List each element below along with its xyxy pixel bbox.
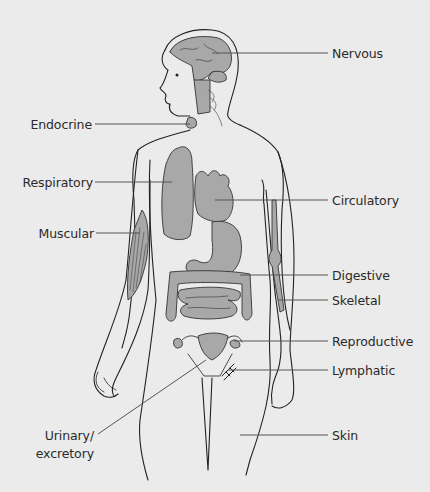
label-endocrine: Endocrine (20, 117, 92, 132)
label-skeletal: Skeletal (332, 293, 381, 308)
label-reproductive: Reproductive (332, 334, 413, 349)
uterus-organ (198, 333, 228, 360)
thyroid-organ (186, 117, 197, 128)
label-urinary-line1: Urinary/ (20, 428, 94, 443)
lung-organ (162, 147, 193, 240)
label-urinary-line2: excretory (20, 446, 94, 461)
lymph-node (222, 364, 236, 380)
small-intestine-organ (178, 287, 240, 319)
label-muscular: Muscular (20, 226, 94, 241)
ovary-left (174, 338, 183, 348)
spinal-cord (194, 80, 210, 114)
label-skin: Skin (332, 428, 358, 443)
heart-organ (195, 171, 233, 222)
label-digestive: Digestive (332, 268, 390, 283)
label-circulatory: Circulatory (332, 193, 399, 208)
body-diagram (0, 0, 430, 492)
label-nervous: Nervous (332, 46, 383, 61)
stomach-organ (186, 221, 241, 278)
label-lymphatic: Lymphatic (332, 363, 395, 378)
label-respiratory: Respiratory (10, 175, 93, 190)
